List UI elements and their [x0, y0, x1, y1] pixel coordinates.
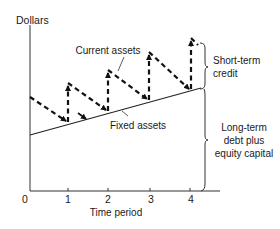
current-assets-label: Current assets: [75, 45, 140, 56]
y-axis-label: Dollars: [16, 14, 49, 26]
long-term-brace: [201, 89, 208, 191]
financing-diagram: Dollars 0 1 2 3 4 Time period Current as…: [0, 0, 280, 229]
fixed-assets-pointer: [78, 113, 86, 119]
x-tick-label-4: 4: [188, 193, 194, 205]
short-term-label-line1: Short-term: [213, 55, 260, 66]
fixed-assets-label: Fixed assets: [110, 120, 166, 131]
x-tick-label-1: 1: [65, 193, 71, 205]
long-term-label-line1: Long-term: [221, 122, 267, 133]
long-term-label-line3: equity capital: [215, 148, 273, 159]
fixed-assets-leader: [122, 111, 128, 116]
x-tick-label-2: 2: [105, 193, 111, 205]
x-axis-label: Time period: [90, 207, 142, 218]
x-tick-label-0: 0: [22, 193, 28, 205]
current-assets-leader: [118, 57, 124, 71]
short-term-brace: [200, 43, 208, 89]
short-term-label-line2: credit: [213, 68, 238, 79]
x-tick-label-3: 3: [148, 193, 154, 205]
long-term-label-line2: debt plus: [224, 135, 265, 146]
